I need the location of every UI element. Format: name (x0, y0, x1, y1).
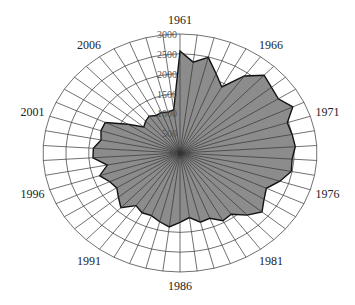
category-label: 1966 (259, 38, 283, 52)
radial-tick-label: 1500 (157, 89, 177, 100)
category-label: 1971 (315, 105, 339, 119)
category-label: 2001 (21, 105, 45, 119)
category-label: 1996 (21, 187, 45, 201)
category-label: 1986 (168, 279, 192, 293)
radial-tick-label: 2000 (157, 69, 177, 80)
radial-tick-label: 3000 (157, 29, 177, 40)
radial-tick-label: 1000 (157, 108, 177, 119)
radial-tick-label: 0 (172, 148, 177, 159)
category-label: 1981 (259, 254, 283, 268)
category-label: 1961 (168, 13, 192, 27)
category-label: 1991 (77, 254, 101, 268)
radial-tick-label: 2500 (157, 49, 177, 60)
radial-tick-label: 500 (162, 128, 177, 139)
category-label: 2006 (77, 38, 101, 52)
category-label: 1976 (315, 187, 339, 201)
radar-chart: 050010001500200025003000 196119661971197… (0, 0, 355, 305)
